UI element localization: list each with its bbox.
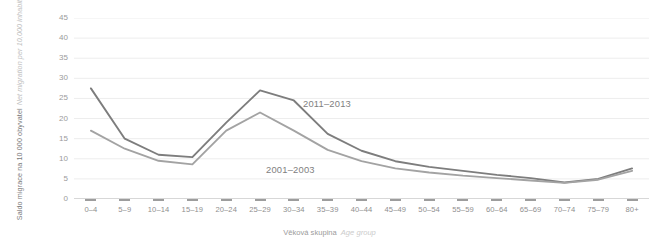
chart-svg <box>74 18 649 199</box>
series-lines <box>91 88 632 183</box>
y-axis-tick-labels: 051015202530354045 <box>32 0 68 210</box>
x-tick-mark <box>356 199 367 201</box>
x-tick-mark <box>119 199 130 201</box>
y-tick-label: 5 <box>46 175 68 183</box>
x-tick-mark <box>322 199 333 201</box>
series-line-new <box>91 88 632 182</box>
x-tick-label: 80+ <box>612 205 652 214</box>
y-tick-label: 40 <box>46 34 68 42</box>
y-tick-label: 10 <box>46 155 68 163</box>
net-migration-by-age-chart: Saldo migrace na 10 000 obyvatel Net mig… <box>0 0 659 247</box>
x-tick-mark <box>593 199 604 201</box>
x-tick-mark <box>525 199 536 201</box>
x-tick-mark <box>457 199 468 201</box>
x-tick-mark <box>559 199 570 201</box>
x-tick-mark <box>221 199 232 201</box>
series-label-2011-2013: 2011–2013 <box>303 98 351 109</box>
y-tick-label: 45 <box>46 14 68 22</box>
series-line-old <box>91 113 632 183</box>
x-axis-title-cs: Věková skupina <box>283 228 337 237</box>
x-tick-mark <box>491 199 502 201</box>
x-tick-mark <box>255 199 266 201</box>
y-tick-label: 25 <box>46 94 68 102</box>
x-tick-80+: 80+ <box>612 199 652 214</box>
x-axis-title-en: Age group <box>341 228 376 237</box>
plot-area <box>74 18 649 199</box>
y-tick-label: 15 <box>46 135 68 143</box>
x-tick-mark <box>424 199 435 201</box>
y-tick-label: 20 <box>46 115 68 123</box>
y-tick-label: 30 <box>46 74 68 82</box>
x-tick-mark <box>187 199 198 201</box>
y-axis-title-cs: Saldo migrace na 10 000 obyvatel <box>15 108 24 220</box>
y-tick-label: 35 <box>46 54 68 62</box>
x-tick-mark <box>627 199 638 201</box>
gridlines <box>74 18 649 199</box>
x-tick-mark <box>153 199 164 201</box>
y-axis-title-en: Net migration per 10,000 inhabitants <box>15 0 24 105</box>
series-label-2001-2003: 2001–2003 <box>266 164 315 175</box>
x-tick-mark <box>288 199 299 201</box>
x-axis-title: Věková skupinaAge group <box>0 228 659 237</box>
y-tick-label: 0 <box>46 195 68 203</box>
x-axis-tick-labels: 0–45–910–1415–1920–2425–2930–3435–3940–4… <box>74 199 649 225</box>
x-tick-mark <box>390 199 401 201</box>
x-tick-mark <box>85 199 96 201</box>
